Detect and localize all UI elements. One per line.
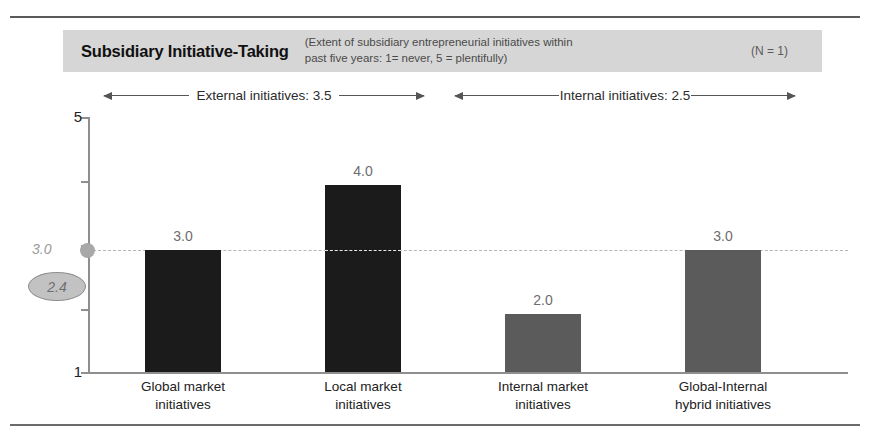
arrow-right-icon bbox=[339, 95, 424, 96]
bottom-rule bbox=[10, 424, 860, 426]
reference-line-overlay bbox=[325, 250, 401, 251]
external-initiatives-annotation: External initiatives: 3.5 bbox=[104, 84, 424, 106]
header-description: (Extent of subsidiary entrepreneurial in… bbox=[305, 35, 573, 66]
average-value-badge: 2.4 bbox=[28, 272, 86, 301]
bar-global-market-initiatives bbox=[145, 250, 221, 372]
y-tick bbox=[81, 309, 89, 311]
header-band: Subsidiary Initiative-Taking (Extent of … bbox=[63, 30, 822, 72]
internal-initiatives-annotation: Internal initiatives: 2.5 bbox=[455, 84, 795, 106]
external-initiatives-label: External initiatives: 3.5 bbox=[189, 88, 338, 103]
top-rule bbox=[10, 16, 860, 18]
category-label-local-market: Local market initiatives bbox=[283, 378, 443, 414]
bar-value-label: 3.0 bbox=[145, 228, 221, 244]
bar-local-market-initiatives bbox=[325, 185, 401, 372]
bar-value-label: 3.0 bbox=[685, 228, 761, 244]
header-description-line1: (Extent of subsidiary entrepreneurial in… bbox=[305, 35, 573, 51]
internal-initiatives-label: Internal initiatives: 2.5 bbox=[559, 88, 692, 103]
sample-size-label: (N = 1) bbox=[751, 44, 788, 58]
arrow-right-icon bbox=[691, 95, 795, 96]
arrow-left-icon bbox=[455, 95, 559, 96]
category-label-global-market: Global market initiatives bbox=[103, 378, 263, 414]
reference-line bbox=[88, 250, 848, 251]
category-label-global-internal-hybrid: Global-Internal hybrid initiatives bbox=[643, 378, 803, 414]
y-tick bbox=[81, 117, 89, 119]
y-tick bbox=[81, 181, 89, 183]
reference-value-label: 3.0 bbox=[32, 241, 51, 257]
bar-global-internal-hybrid-initiatives bbox=[685, 250, 761, 372]
x-axis bbox=[88, 372, 848, 374]
bar-value-label: 2.0 bbox=[505, 292, 581, 308]
y-axis-tick-bottom: 1 bbox=[42, 363, 82, 380]
page-title: Subsidiary Initiative-Taking bbox=[81, 42, 289, 61]
y-tick bbox=[81, 245, 89, 247]
bar-value-label: 4.0 bbox=[325, 163, 401, 179]
reference-dot-icon bbox=[80, 243, 95, 258]
header-description-line2: past five years: 1= never, 5 = plentiful… bbox=[305, 51, 573, 67]
y-axis-tick-top: 5 bbox=[42, 108, 82, 125]
y-tick bbox=[81, 372, 89, 374]
bar-internal-market-initiatives bbox=[505, 314, 581, 372]
category-label-internal-market: Internal market initiatives bbox=[463, 378, 623, 414]
y-axis bbox=[88, 117, 90, 373]
arrow-left-icon bbox=[104, 95, 189, 96]
